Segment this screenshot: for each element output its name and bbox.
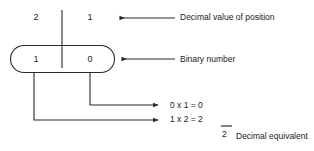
label-decimal-equivalent: Decimal equivalent	[236, 132, 308, 141]
leader-line-bit-0	[90, 72, 158, 105]
label-decimal-value-of-position: Decimal value of position	[180, 13, 275, 22]
binary-decimal-diagram: 2 1 1 0 Decimal value of position Binary…	[0, 0, 314, 151]
calculation-row-lsb: 0 x 1 = 0	[170, 101, 203, 110]
binary-bit-lsb: 0	[83, 55, 97, 64]
label-binary-number: Binary number	[180, 55, 235, 64]
calculation-row-msb: 1 x 2 = 2	[170, 115, 203, 124]
leader-line-bit-1	[34, 72, 158, 120]
sum-total-value: 2	[222, 130, 227, 139]
position-weight-1: 1	[83, 13, 97, 22]
diagram-canvas	[0, 0, 314, 151]
binary-bit-msb: 1	[29, 55, 43, 64]
position-weight-2: 2	[29, 13, 43, 22]
